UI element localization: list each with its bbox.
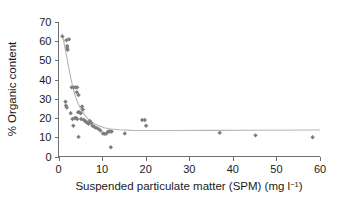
x-tick-group: 0102030405060 [55,157,326,175]
data-point [218,131,222,135]
y-tick-label: 70 [39,16,51,28]
data-point [109,145,113,149]
x-tick-label: 40 [227,163,239,175]
y-tick-label: 30 [39,93,51,105]
data-point [69,111,73,115]
x-tick-label: 0 [55,163,61,175]
x-tick-label: 60 [314,163,326,175]
data-point [253,133,257,137]
y-tick-label: 50 [39,54,51,66]
axes-group [58,22,320,157]
x-tick-label: 30 [183,163,195,175]
data-point [144,124,148,128]
y-tick-label: 10 [39,131,51,143]
x-tick-label: 10 [96,163,108,175]
data-point [63,100,67,104]
data-point [143,118,147,122]
y-tick-label: 60 [39,35,51,47]
scatter-plot: 010203040506070 0102030405060 % Organic … [0,0,343,200]
x-tick-label: 20 [140,163,152,175]
data-point [310,135,314,139]
x-tick-label: 50 [270,163,282,175]
data-point [71,124,75,128]
chart-figure: 010203040506070 0102030405060 % Organic … [0,0,343,200]
data-point [60,34,64,38]
fitted-trend-curve [62,34,320,131]
y-axis-title: % Organic content [6,41,18,136]
y-tick-label: 20 [39,112,51,124]
x-axis-title: Suspended particulate matter (SPM) (mg l… [75,180,302,193]
data-point [123,131,127,135]
y-tick-group: 010203040506070 [39,16,58,163]
data-point [76,135,80,139]
data-point-group [60,34,315,149]
y-tick-label: 40 [39,74,51,86]
y-tick-label: 0 [45,151,51,163]
